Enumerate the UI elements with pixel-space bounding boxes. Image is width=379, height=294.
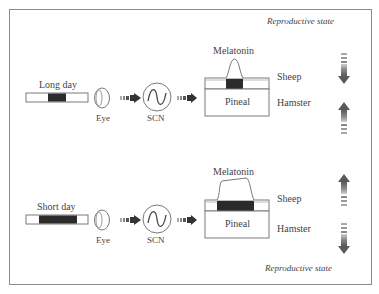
arrow-scn-to-pineal bbox=[177, 215, 197, 225]
sheep-label: Sheep bbox=[277, 194, 301, 204]
pineal-gland-short-day bbox=[205, 178, 269, 238]
sheep-down-arrow-icon bbox=[338, 53, 350, 84]
pineal-label: Pineal bbox=[225, 219, 250, 229]
melatonin-label: Melatonin bbox=[213, 167, 254, 177]
photoperiod-bar-short-day bbox=[26, 215, 88, 224]
eye-label: Eye bbox=[96, 114, 110, 123]
arrow-scn-to-pineal bbox=[177, 93, 197, 103]
short-day-label: Short day bbox=[37, 202, 76, 212]
arrow-eye-to-scn bbox=[120, 215, 141, 225]
melatonin-label: Melatonin bbox=[213, 46, 254, 56]
hamster-down-arrow-icon bbox=[338, 223, 350, 254]
sheep-up-arrow-icon bbox=[338, 174, 350, 206]
long-day-label: Long day bbox=[39, 80, 77, 90]
arrow-eye-to-scn bbox=[120, 93, 141, 103]
hamster-label: Hamster bbox=[277, 98, 311, 108]
pineal-label: Pineal bbox=[225, 97, 250, 107]
eye-label: Eye bbox=[96, 236, 110, 245]
scn-label: SCN bbox=[147, 236, 165, 245]
pineal-gland-long-day bbox=[205, 59, 269, 116]
scn-oscillator-icon bbox=[143, 205, 171, 233]
eye-icon bbox=[95, 88, 110, 108]
reproductive-state-title-bottom: Reproductive state bbox=[265, 264, 332, 273]
photoperiod-bar-long-day bbox=[26, 93, 88, 102]
long-day-panel bbox=[26, 53, 350, 134]
scn-label: SCN bbox=[147, 114, 165, 123]
hamster-label: Hamster bbox=[277, 224, 311, 234]
hamster-up-arrow-icon bbox=[338, 102, 350, 134]
scn-oscillator-icon bbox=[143, 83, 171, 111]
diagram-graphics bbox=[0, 0, 379, 294]
short-day-panel bbox=[26, 174, 350, 254]
eye-icon bbox=[95, 210, 110, 230]
reproductive-state-title-top: Reproductive state bbox=[267, 17, 334, 26]
sheep-label: Sheep bbox=[277, 72, 301, 82]
